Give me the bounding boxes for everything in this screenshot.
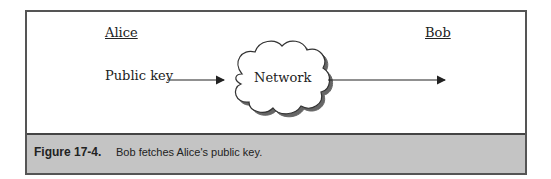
figure-frame: Alice Bob Public key Network Figure 17-4… bbox=[25, 10, 527, 175]
caption-number: Figure 17-4. bbox=[34, 145, 116, 159]
caption-text: Bob fetches Alice's public key. bbox=[116, 146, 262, 158]
network-label: Network bbox=[254, 70, 311, 85]
diagram-area: Alice Bob Public key Network bbox=[27, 12, 525, 133]
figure-caption: Figure 17-4.Bob fetches Alice's public k… bbox=[27, 133, 525, 173]
